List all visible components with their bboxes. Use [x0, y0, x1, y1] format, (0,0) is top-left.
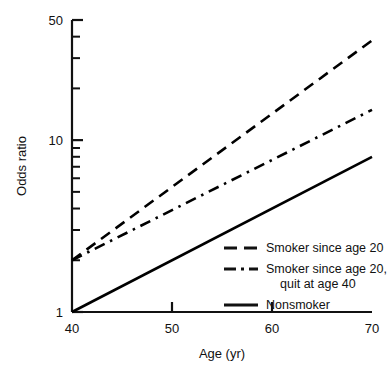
- x-axis-title: Age (yr): [199, 346, 245, 361]
- legend-label-2: Nonsmoker: [266, 298, 330, 312]
- chart-figure: 11050 40506070 Age (yr) Odds ratio Smoke…: [0, 0, 387, 375]
- legend-label-0: Smoker since age 20: [266, 241, 383, 255]
- legend-label-1-line2: quit at age 40: [280, 277, 356, 291]
- y-tick-label-1: 1: [56, 305, 63, 320]
- x-tick-label-60: 60: [265, 321, 279, 336]
- odds-ratio-line-chart: 11050 40506070 Age (yr) Odds ratio Smoke…: [0, 0, 387, 375]
- x-tick-label-70: 70: [365, 321, 379, 336]
- y-axis-title: Odds ratio: [14, 136, 29, 196]
- x-tick-label-40: 40: [65, 321, 79, 336]
- y-tick-label-10: 10: [49, 133, 63, 148]
- legend-label-1: Smoker since age 20,: [266, 262, 387, 276]
- y-tick-label-50: 50: [49, 13, 63, 28]
- x-tick-label-50: 50: [165, 321, 179, 336]
